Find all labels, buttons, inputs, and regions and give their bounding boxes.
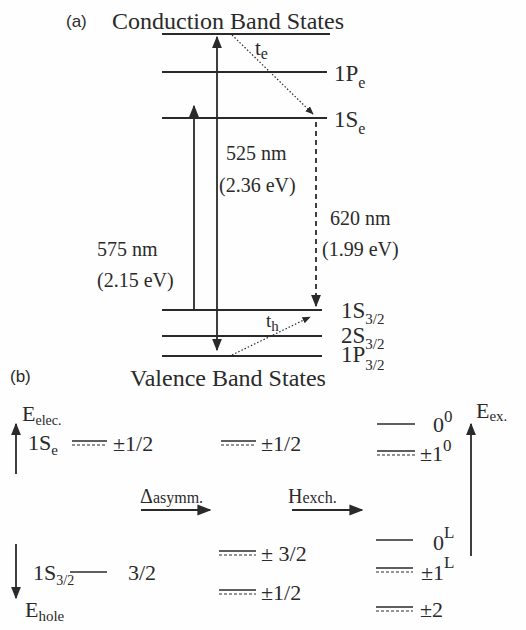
svg-text:1Pe: 1Pe <box>334 61 365 91</box>
svg-text:±1/2: ±1/2 <box>261 580 301 605</box>
svg-text:Eelec.: Eelec. <box>22 401 61 428</box>
panel-b-label: (b) <box>10 367 31 386</box>
label-1Se: 1Se <box>334 107 365 137</box>
electron-spin-value: ±1/2 <box>113 431 153 456</box>
asym-level-hole-3/2: ± 3/2 <box>219 541 307 566</box>
svg-text:±1L: ±1L <box>421 553 454 585</box>
exciton-axis-label: Eex. <box>476 398 507 424</box>
label-1Pe: 1Pe <box>334 61 365 91</box>
exciton-level-0-upper: 00 <box>377 407 453 437</box>
svg-text:± 3/2: ± 3/2 <box>261 541 307 566</box>
wavelength-575: 575 nm <box>97 238 158 260</box>
te-label: te <box>255 36 268 62</box>
exchange-label: Hexch. <box>288 485 337 507</box>
valence-band-title: Valence Band States <box>130 365 326 391</box>
hole-axis-label: Ehole <box>25 597 65 624</box>
hole-state-label: 1S3/2 <box>33 560 74 588</box>
electron-state-label: 1Se <box>28 430 58 458</box>
wavelength-525: 525 nm <box>226 142 287 164</box>
svg-text:1S3/2: 1S3/2 <box>33 560 74 588</box>
electron-relaxation-arrow <box>232 35 313 114</box>
electron-axis-label: Eelec. <box>22 401 61 428</box>
asymmetry-label: Δasymm. <box>140 485 203 507</box>
asym-level-electron: ±1/2 <box>221 431 301 456</box>
hole-spin-value: 3/2 <box>128 560 156 585</box>
svg-text:±1/2: ±1/2 <box>261 431 301 456</box>
svg-text:1Se: 1Se <box>334 107 365 137</box>
diagram-canvas: (a) Conduction Band States 1Pe 1Se 1S3/2… <box>0 0 526 630</box>
svg-text:Hexch.: Hexch. <box>288 485 337 507</box>
th-label: th <box>266 310 279 334</box>
exciton-level-pm1-lower: ±1L <box>376 553 454 585</box>
energy-level-diagram: (a) Conduction Band States 1Pe 1Se 1S3/2… <box>0 0 526 630</box>
exciton-level-pm2: ±2 <box>376 597 443 622</box>
panel-a-label: (a) <box>66 12 87 31</box>
svg-text:1Se: 1Se <box>28 430 58 458</box>
energy-215: (2.15 eV) <box>97 269 174 292</box>
svg-text:0L: 0L <box>433 523 454 555</box>
exciton-level-0-lower: 0L <box>376 523 454 555</box>
exciton-level-pm1-upper: ±10 <box>377 436 452 466</box>
svg-text:00: 00 <box>433 407 453 437</box>
svg-text:th: th <box>266 310 279 334</box>
svg-text:Δasymm.: Δasymm. <box>140 485 203 507</box>
svg-text:±10: ±10 <box>420 436 452 466</box>
energy-236: (2.36 eV) <box>219 174 296 197</box>
conduction-band-title: Conduction Band States <box>112 8 344 34</box>
asym-level-hole-1/2: ±1/2 <box>219 580 301 605</box>
energy-199: (1.99 eV) <box>322 238 399 261</box>
wavelength-620: 620 nm <box>330 207 391 229</box>
svg-text:±2: ±2 <box>420 597 443 622</box>
svg-text:te: te <box>255 36 268 62</box>
svg-text:Eex.: Eex. <box>476 398 507 424</box>
svg-text:Ehole: Ehole <box>25 597 65 624</box>
